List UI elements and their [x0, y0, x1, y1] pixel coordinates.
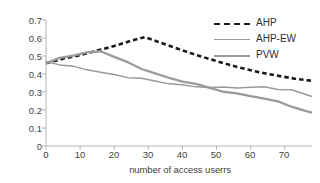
legend-label: AHP-EW: [250, 34, 296, 44]
x-axis-ticks: [46, 146, 285, 150]
chart-legend: AHP AHP-EW PVW: [214, 16, 318, 64]
legend-swatch-dashed-icon: [214, 18, 250, 28]
legend-label: AHP: [250, 18, 277, 28]
chart-container: available load variance 0.7 0.6 0.5 0.4 …: [0, 0, 320, 183]
legend-item-pvw: PVW: [214, 48, 318, 62]
legend-item-ahp: AHP: [214, 16, 318, 30]
y-axis-ticks: [42, 20, 46, 146]
legend-label: PVW: [250, 50, 279, 60]
legend-swatch-solid-icon: [214, 34, 250, 44]
legend-item-ahp-ew: AHP-EW: [214, 32, 318, 46]
legend-swatch-solid-thick-icon: [214, 50, 250, 60]
series-line-ahp-ew: [46, 61, 312, 96]
